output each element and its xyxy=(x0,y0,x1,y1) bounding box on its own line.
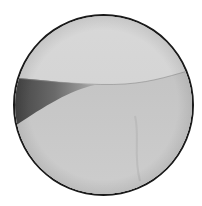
tissue-scene xyxy=(15,16,192,194)
endoscopic-view xyxy=(13,14,194,196)
